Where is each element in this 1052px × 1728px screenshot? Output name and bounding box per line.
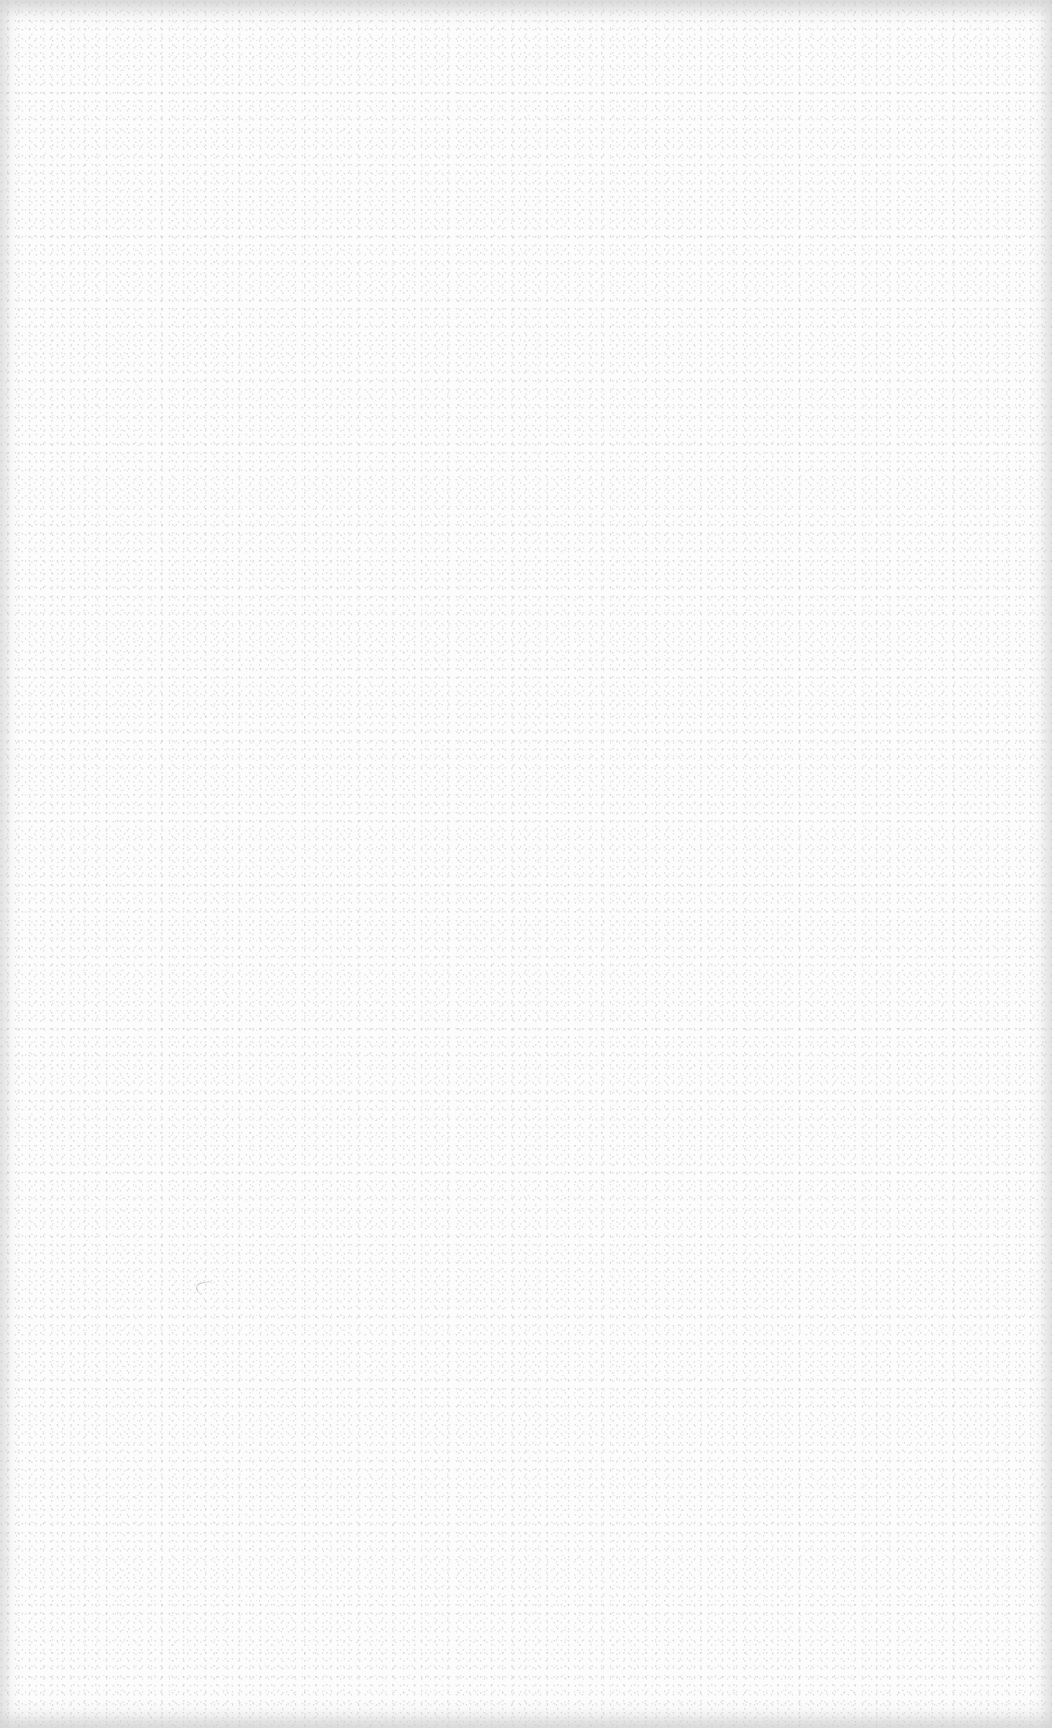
blank-page: [0, 0, 1052, 1728]
faint-pencil-mark: [195, 1280, 214, 1294]
page-edge-shading: [0, 0, 1052, 1728]
